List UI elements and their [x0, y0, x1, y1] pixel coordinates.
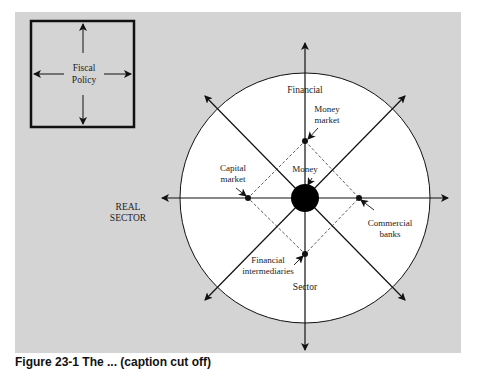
fiscal-policy-box: Fiscal Policy [31, 21, 134, 127]
money-market-label-1: Money [314, 104, 340, 114]
capital-market-label-2: market [221, 174, 246, 184]
figure-caption: Figure 23-1 The ... (caption cut off) [15, 355, 211, 369]
fin-intermediaries-label-2: intermediaries [242, 266, 294, 276]
commercial-banks-label-1: Commercial [368, 218, 413, 228]
financial-top-label: Financial [287, 85, 323, 95]
money-label: Money [292, 164, 318, 174]
fiscal-label-2: Policy [72, 75, 97, 85]
real-sector-label-1: REAL [116, 202, 141, 212]
money-market-node [302, 138, 308, 144]
real-sector-label-2: SECTOR [110, 213, 147, 223]
capital-market-label-1: Capital [220, 163, 246, 173]
commercial-banks-label-2: banks [380, 229, 401, 239]
fiscal-label-1: Fiscal [73, 63, 96, 73]
sector-bottom-label: Sector [293, 282, 318, 292]
fin-intermediaries-label-1: Financial [251, 255, 285, 265]
money-market-label-2: market [315, 115, 340, 125]
money-core [291, 184, 319, 212]
